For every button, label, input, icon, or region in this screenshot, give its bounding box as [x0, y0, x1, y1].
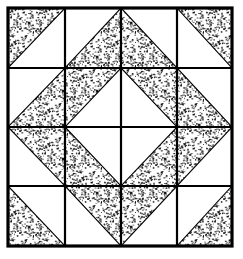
- quilt-block-canvas: Pieced Quilt Block: [0, 0, 243, 259]
- quilt-block-figure: Pieced Quilt Block: [0, 0, 243, 259]
